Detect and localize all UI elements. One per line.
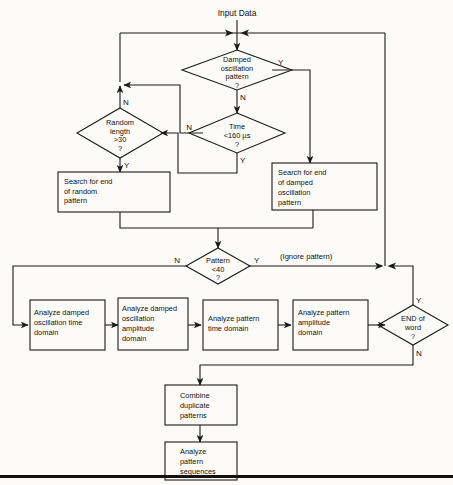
analyze3-line-2: time domain [208,324,248,333]
flowchart-page: Input Data [0,0,453,485]
search-random-line-1: Search for end [64,177,112,186]
decision-pattern-count[interactable]: Pattern <40 ? [186,248,250,284]
process-analyze-damped-oscillation-time-domain[interactable]: Analyze damped oscillation time domain [30,300,105,350]
combine-line-3: patterns [180,411,207,420]
conn-endword-no-to-combine [200,345,413,385]
analyze2-line-4: domain [122,334,146,343]
connector-group [13,20,413,442]
sequences-line-2: pattern [180,457,203,466]
analyze4-line-1: Analyze pattern [298,308,349,317]
analyze4-line-3: domain [298,328,322,337]
flag-random-no: N [123,98,129,107]
analyze1-line-2: oscillation time [34,318,82,327]
process-analyze-pattern-amplitude-domain[interactable]: Analyze pattern amplitude domain [293,300,368,350]
decision-random-length[interactable]: Random length >30 ? [77,108,163,158]
analyze1-line-3: domain [34,328,58,337]
search-damped-line-4: pattern [278,198,301,207]
analyze4-line-2: amplitude [298,318,330,327]
conn-endword-yes-to-return [392,266,413,305]
flag-time-yes: Y [240,156,246,165]
decision-pattern-line-3: ? [216,273,220,282]
analyze2-line-1: Analyze damped [122,304,177,313]
combine-line-2: duplicate [180,401,210,410]
decision-random-line-4: ? [118,144,122,153]
process-analyze-pattern-time-domain[interactable]: Analyze pattern time domain [203,300,278,350]
search-damped-line-2: of damped [278,178,313,187]
process-analyze-damped-oscillation-amplitude-domain[interactable]: Analyze damped oscillation amplitude dom… [118,298,188,350]
analyze1-line-1: Analyze damped [34,308,89,317]
flag-pattern-no: N [174,256,180,265]
sequences-line-1: Analyze [180,447,206,456]
sequences-line-3: sequences [180,467,216,476]
flowchart-canvas: Input Data [0,0,453,485]
flag-endword-no: N [416,349,422,358]
search-damped-line-1: Search for end [278,168,326,177]
decision-endword-line-1: END of [401,314,426,323]
flag-pattern-yes: Y [254,256,260,265]
analyze2-line-2: oscillation [122,314,154,323]
search-damped-line-3: oscillation [278,188,310,197]
conn-search-random-to-bottom-rail [120,212,313,228]
process-analyze-pattern-sequences[interactable]: Analyze pattern sequences [165,442,237,480]
analyze3-line-1: Analyze pattern [208,314,259,323]
search-random-line-2: of random [64,187,97,196]
flag-damped-yes: Y [278,58,284,67]
flag-random-yes: Y [124,161,130,170]
input-data-title: Input Data [218,8,257,18]
decision-time-line-3: ? [235,140,239,149]
process-search-end-random-pattern[interactable]: Search for end of random pattern [58,172,170,212]
decision-time-line-2: <160 µs [224,131,251,140]
combine-line-1: Combine [180,391,210,400]
analyze2-line-3: amplitude [122,324,154,333]
decision-endword-line-2: word [404,323,421,332]
decision-endword-line-3: ? [411,332,415,341]
decision-time-threshold[interactable]: Time <160 µs ? [189,113,285,153]
process-search-end-damped-oscillation-pattern[interactable]: Search for end of damped oscillation pat… [272,163,377,210]
flag-endword-yes: Y [416,296,422,305]
search-random-line-3: pattern [64,196,87,205]
ignore-pattern-note: (Ignore pattern) [280,252,333,261]
flag-time-no: N [186,123,192,132]
bottom-rule [0,475,453,478]
flag-damped-no: N [240,93,246,102]
decision-damped-line-4: ? [235,81,239,90]
decision-end-of-word[interactable]: END of word ? [378,305,448,345]
process-combine-duplicate-patterns[interactable]: Combine duplicate patterns [165,385,237,425]
conn-damped-yes-to-search-damped [272,70,310,163]
decision-time-line-1: Time [229,122,245,131]
